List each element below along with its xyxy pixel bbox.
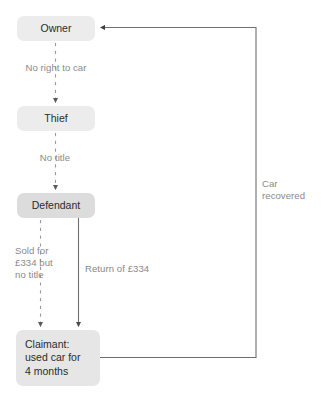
edge-label-car-recovered: Car recovered bbox=[262, 178, 318, 202]
edge-claimant-to-owner bbox=[100, 28, 256, 358]
node-thief[interactable]: Thief bbox=[17, 106, 95, 131]
flow-diagram: Owner Thief Defendant Claimant: used car… bbox=[0, 0, 323, 400]
edge-label-return-of-334: Return of £334 bbox=[85, 263, 177, 275]
edge-label-sold-for: Sold for £334 but no title bbox=[15, 245, 75, 281]
node-claimant[interactable]: Claimant: used car for 4 months bbox=[16, 330, 100, 386]
node-thief-label: Thief bbox=[44, 112, 67, 126]
node-owner-label: Owner bbox=[41, 22, 72, 36]
node-defendant[interactable]: Defendant bbox=[17, 193, 95, 218]
edge-label-no-title: No title bbox=[22, 152, 88, 164]
node-defendant-label: Defendant bbox=[32, 199, 80, 213]
node-claimant-label: Claimant: used car for 4 months bbox=[25, 338, 80, 379]
edge-label-no-right-to-car: No right to car bbox=[12, 62, 100, 74]
node-owner[interactable]: Owner bbox=[17, 16, 95, 41]
